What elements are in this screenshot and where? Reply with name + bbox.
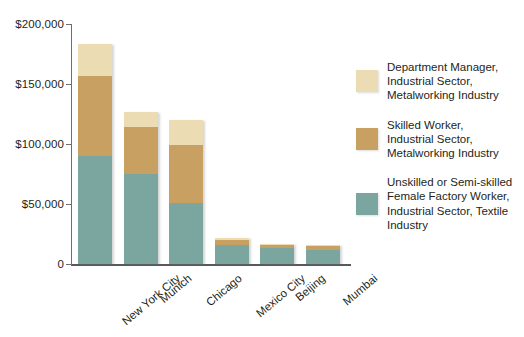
bar-segment[interactable] — [260, 248, 294, 264]
legend-label-line: Industry — [387, 218, 512, 232]
bar-segment[interactable] — [169, 145, 203, 203]
legend-label-line: Metalworking Industry — [387, 88, 499, 102]
legend-label-line: Skilled Worker, — [387, 118, 499, 132]
bar-group[interactable] — [260, 244, 294, 264]
bar-stack[interactable] — [124, 112, 158, 264]
x-axis-label: Munich — [157, 272, 193, 305]
y-tick-mark — [66, 264, 72, 265]
x-axis-label: Beijing — [293, 272, 327, 303]
bar-segment[interactable] — [124, 112, 158, 128]
bar-stack[interactable] — [78, 44, 112, 264]
bar-stack[interactable] — [260, 244, 294, 264]
legend-label-skilled-worker: Skilled Worker, Industrial Sector, Metal… — [387, 118, 499, 161]
x-axis-line — [71, 264, 351, 266]
bar-segment[interactable] — [78, 76, 112, 156]
y-tick-mark — [66, 24, 72, 25]
x-axis-label: Mexico City — [253, 272, 306, 319]
plot-area: $200,000 $150,000 $100,000 $50,000 0 — [72, 24, 340, 264]
legend-label-line: Industrial Sector, — [387, 74, 499, 88]
legend-label-line: Industrial Sector, — [387, 132, 499, 146]
x-axis-label: Mumbai — [340, 272, 379, 307]
legend-label-line: Department Manager, — [387, 60, 499, 74]
x-axis-label: New York City — [120, 272, 183, 327]
y-tick-label: $200,000 — [15, 18, 64, 30]
y-tick-mark — [66, 84, 72, 85]
bar-segment[interactable] — [78, 44, 112, 75]
bar-stack[interactable] — [215, 238, 249, 264]
bar-stack[interactable] — [169, 120, 203, 264]
x-axis-label: Chicago — [204, 272, 244, 308]
bar-group[interactable] — [78, 44, 112, 264]
bar-segment[interactable] — [124, 174, 158, 264]
bar-stack[interactable] — [306, 245, 340, 264]
y-tick-label: $150,000 — [15, 78, 64, 90]
bar-segment[interactable] — [78, 156, 112, 264]
y-tick-mark — [66, 204, 72, 205]
y-tick-mark — [66, 144, 72, 145]
y-tick-label: $100,000 — [15, 138, 64, 150]
legend-label-line: Unskilled or Semi-skilled — [387, 175, 512, 189]
legend-swatch-unskilled-worker — [356, 193, 378, 215]
legend-item-skilled-worker: Skilled Worker, Industrial Sector, Metal… — [356, 118, 522, 161]
bar-segment[interactable] — [306, 250, 340, 264]
legend-item-unskilled-worker: Unskilled or Semi-skilled Female Factory… — [356, 175, 522, 232]
legend-item-department-manager: Department Manager, Industrial Sector, M… — [356, 60, 522, 103]
bar-group[interactable] — [215, 238, 249, 264]
legend: Department Manager, Industrial Sector, M… — [356, 60, 522, 247]
legend-label-line: Metalworking Industry — [387, 146, 499, 160]
y-tick-label: 0 — [58, 258, 65, 270]
bar-group[interactable] — [306, 245, 340, 264]
legend-swatch-skilled-worker — [356, 128, 378, 150]
bar-segment[interactable] — [215, 245, 249, 264]
bar-segment[interactable] — [124, 127, 158, 174]
legend-label-unskilled-worker: Unskilled or Semi-skilled Female Factory… — [387, 175, 512, 232]
legend-swatch-department-manager — [356, 70, 378, 92]
bar-group[interactable] — [124, 112, 158, 264]
y-tick-label: $50,000 — [22, 198, 64, 210]
legend-label-department-manager: Department Manager, Industrial Sector, M… — [387, 60, 499, 103]
legend-label-line: Industrial Sector, Textile — [387, 204, 512, 218]
bar-segment[interactable] — [169, 120, 203, 145]
bar-segment[interactable] — [169, 203, 203, 264]
bar-group[interactable] — [169, 120, 203, 264]
legend-label-line: Female Factory Worker, — [387, 189, 512, 203]
stacked-bar-chart: $200,000 $150,000 $100,000 $50,000 0 New… — [0, 0, 524, 337]
